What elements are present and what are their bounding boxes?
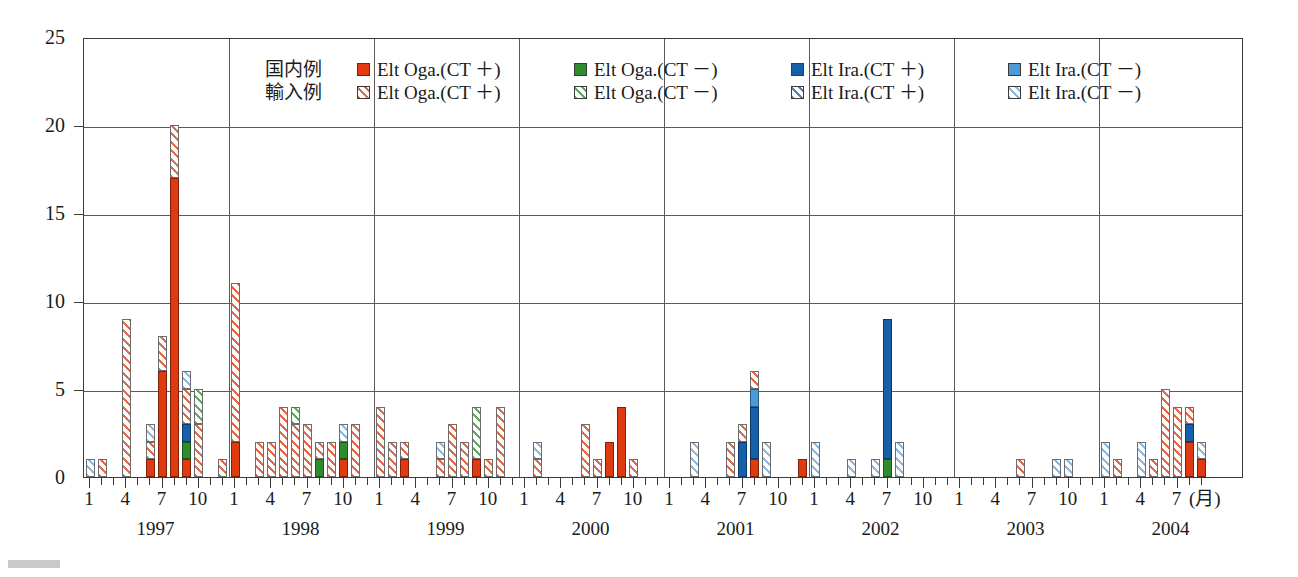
bar-stack[interactable] [738,424,747,477]
bar-segment-imp-oga-pos[interactable] [1185,407,1194,425]
bar-segment-imp-oga-pos[interactable] [279,407,288,477]
bar-segment-imp-oga-pos[interactable] [1016,459,1025,477]
bar-segment-imp-ira-neg[interactable] [86,459,95,477]
bar-segment-imp-ira-neg[interactable] [762,442,771,477]
bar-segment-imp-ira-neg[interactable] [339,424,348,442]
bar-stack[interactable] [883,319,892,477]
bar-stack[interactable] [496,407,505,477]
bar-segment-imp-ira-neg[interactable] [690,442,699,477]
bar-stack[interactable] [158,336,167,477]
bar-stack[interactable] [617,407,626,477]
bar-segment-dom-ira-pos[interactable] [1185,424,1194,442]
bar-stack[interactable] [581,424,590,477]
bar-segment-dom-oga-pos[interactable] [182,459,191,477]
bar-segment-imp-oga-pos[interactable] [146,442,155,460]
bar-segment-imp-oga-pos[interactable] [182,389,191,424]
bar-stack[interactable] [484,459,493,477]
bar-stack[interactable] [1149,459,1158,477]
bar-segment-imp-oga-pos[interactable] [1173,407,1182,477]
bar-stack[interactable] [895,442,904,477]
bar-segment-imp-oga-pos[interactable] [291,424,300,477]
legend-item[interactable]: Elt Ira.(CT ＋) [791,60,1008,79]
bar-stack[interactable] [267,442,276,477]
bar-segment-imp-ira-neg[interactable] [871,459,880,477]
bar-stack[interactable] [122,319,131,477]
bar-segment-dom-oga-pos[interactable] [605,442,614,477]
bar-segment-dom-oga-pos[interactable] [400,459,409,477]
bar-segment-imp-oga-pos[interactable] [170,125,179,178]
bar-stack[interactable] [315,442,324,477]
bar-stack[interactable] [871,459,880,477]
bar-segment-dom-oga-pos[interactable] [1185,442,1194,477]
bar-stack[interactable] [291,407,300,477]
bar-segment-imp-oga-pos[interactable] [738,424,747,442]
bar-stack[interactable] [460,442,469,477]
bar-stack[interactable] [811,442,820,477]
bar-stack[interactable] [1101,442,1110,477]
bar-segment-imp-oga-pos[interactable] [726,442,735,477]
bar-segment-imp-ira-neg[interactable] [895,442,904,477]
bar-segment-dom-oga-pos[interactable] [617,407,626,477]
bar-stack[interactable] [388,442,397,477]
bar-segment-dom-oga-pos[interactable] [146,459,155,477]
bar-stack[interactable] [1137,442,1146,477]
bar-stack[interactable] [327,442,336,477]
bar-segment-imp-oga-pos[interactable] [98,459,107,477]
bar-segment-dom-oga-pos[interactable] [798,459,807,477]
bar-stack[interactable] [690,442,699,477]
bar-segment-dom-oga-pos[interactable] [339,459,348,477]
bar-stack[interactable] [847,459,856,477]
bar-segment-imp-ira-neg[interactable] [146,424,155,442]
bar-segment-imp-oga-neg[interactable] [194,389,203,424]
bar-segment-imp-oga-pos[interactable] [351,424,360,477]
bar-stack[interactable] [436,442,445,477]
bar-segment-imp-oga-pos[interactable] [496,407,505,477]
bar-stack[interactable] [1185,407,1194,477]
bar-segment-imp-oga-pos[interactable] [158,336,167,371]
bar-stack[interactable] [351,424,360,477]
bar-segment-imp-ira-neg[interactable] [1064,459,1073,477]
bar-segment-dom-oga-pos[interactable] [750,459,759,477]
bar-segment-imp-oga-pos[interactable] [218,459,227,477]
bar-segment-imp-oga-neg[interactable] [291,407,300,425]
bar-segment-imp-oga-pos[interactable] [1149,459,1158,477]
bar-stack[interactable] [170,125,179,477]
bar-segment-dom-oga-pos[interactable] [170,178,179,477]
bar-stack[interactable] [1161,389,1170,477]
bar-segment-imp-oga-pos[interactable] [436,459,445,477]
bar-stack[interactable] [726,442,735,477]
bar-segment-imp-oga-pos[interactable] [593,459,602,477]
bar-stack[interactable] [279,407,288,477]
bar-segment-imp-oga-pos[interactable] [122,319,131,477]
bar-segment-dom-oga-pos[interactable] [158,371,167,477]
bar-segment-imp-ira-neg[interactable] [436,442,445,460]
bar-segment-imp-oga-pos[interactable] [1161,389,1170,477]
bar-segment-dom-oga-pos[interactable] [231,442,240,477]
bar-stack[interactable] [400,442,409,477]
bar-segment-imp-ira-neg[interactable] [811,442,820,477]
bar-segment-imp-oga-pos[interactable] [231,283,240,441]
bar-segment-imp-oga-pos[interactable] [303,424,312,477]
bar-stack[interactable] [750,371,759,477]
bar-stack[interactable] [1052,459,1061,477]
bar-stack[interactable] [182,371,191,477]
bar-segment-dom-oga-neg[interactable] [339,442,348,460]
bar-segment-imp-oga-pos[interactable] [629,459,638,477]
bar-segment-dom-oga-neg[interactable] [883,459,892,477]
bar-stack[interactable] [1064,459,1073,477]
bar-segment-imp-oga-pos[interactable] [267,442,276,477]
bar-stack[interactable] [146,424,155,477]
bar-segment-imp-oga-pos[interactable] [460,442,469,477]
bar-segment-imp-oga-pos[interactable] [388,442,397,477]
bar-segment-imp-ira-neg[interactable] [1052,459,1061,477]
bar-stack[interactable] [1113,459,1122,477]
bar-stack[interactable] [1016,459,1025,477]
bar-segment-imp-oga-pos[interactable] [327,442,336,477]
legend-item[interactable]: Elt Ira.(CT ＋) [791,83,1008,102]
bar-stack[interactable] [1173,407,1182,477]
bar-stack[interactable] [798,459,807,477]
bar-segment-dom-ira-pos[interactable] [883,319,892,460]
bar-segment-dom-oga-neg[interactable] [315,459,324,477]
bar-segment-imp-oga-pos[interactable] [194,424,203,477]
bar-stack[interactable] [472,407,481,477]
